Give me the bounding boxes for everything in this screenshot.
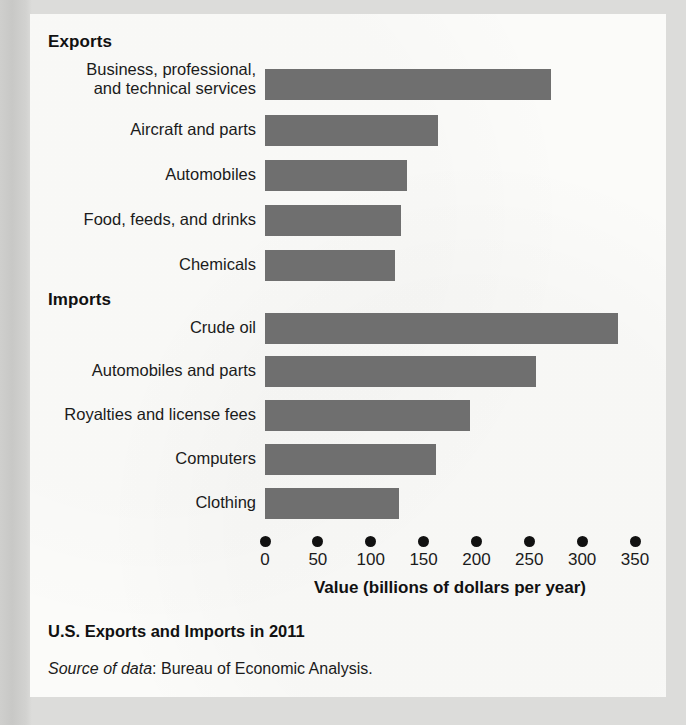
bar-computers [265,444,436,475]
x-axis-title: Value (billions of dollars per year) [150,578,686,598]
bar-row: Business, professional, and technical se… [30,69,666,100]
bar-row: Crude oil [30,313,666,344]
x-axis-tick-label: 100 [341,550,401,570]
bar-row-label: Royalties and license fees [30,405,256,424]
source-note-text: : Bureau of Economic Analysis. [152,660,373,677]
bar-row: Food, feeds, and drinks [30,205,666,236]
bar-automobiles [265,160,407,191]
bar-row-label-line1: Business, professional, [30,60,256,79]
x-axis-tick-dot [471,536,482,547]
x-axis-tick-dot [630,536,641,547]
figure-page: Exports Imports Business, professional, … [0,0,686,725]
bar-row: Automobiles and parts [30,356,666,387]
bar-row-label: Clothing [30,493,256,512]
bar-row-label: Computers [30,449,256,468]
bar-chemicals [265,250,395,281]
x-axis-tick-dot [365,536,376,547]
bar-crude-oil [265,313,618,344]
bar-row: Automobiles [30,160,666,191]
bar-business-professional-technical-services [265,69,551,100]
chart-title: U.S. Exports and Imports in 2011 [48,622,305,641]
x-axis-tick-dot [577,536,588,547]
x-axis-tick-dot [312,536,323,547]
bar-row: Chemicals [30,250,666,281]
bar-clothing [265,488,399,519]
bar-row-label: Automobiles [30,165,256,184]
bar-royalties-and-license-fees [265,400,470,431]
source-note-label: Source of data [48,660,152,677]
x-axis-tick-label: 200 [446,550,506,570]
bar-food-feeds-and-drinks [265,205,401,236]
bar-row-label: Food, feeds, and drinks [30,210,256,229]
x-axis: 050100150200250300350Value (billions of … [30,536,666,606]
bar-row-label-line2: and technical services [30,79,256,98]
bar-row-label: Crude oil [30,318,256,337]
x-axis-tick-label: 50 [288,550,348,570]
bar-chart-plot-area: Business, professional, and technical se… [30,14,666,574]
bar-row-label: Aircraft and parts [30,120,256,139]
bar-row-label: Chemicals [30,255,256,274]
bar-row-label: Automobiles and parts [30,361,256,380]
x-axis-tick-dot [418,536,429,547]
bar-row: Computers [30,444,666,475]
bar-row-label: Business, professional, and technical se… [30,60,256,98]
x-axis-tick-dot [524,536,535,547]
x-axis-tick-label: 300 [552,550,612,570]
bar-row: Royalties and license fees [30,400,666,431]
bar-aircraft-and-parts [265,115,438,146]
bar-automobiles-and-parts [265,356,536,387]
bar-row: Aircraft and parts [30,115,666,146]
x-axis-tick-label: 0 [235,550,295,570]
figure-card: Exports Imports Business, professional, … [30,14,666,697]
x-axis-tick-label: 250 [499,550,559,570]
x-axis-tick-dot [260,536,271,547]
source-note: Source of data: Bureau of Economic Analy… [48,660,373,678]
bar-row: Clothing [30,488,666,519]
x-axis-tick-label: 350 [605,550,665,570]
x-axis-tick-label: 150 [394,550,454,570]
